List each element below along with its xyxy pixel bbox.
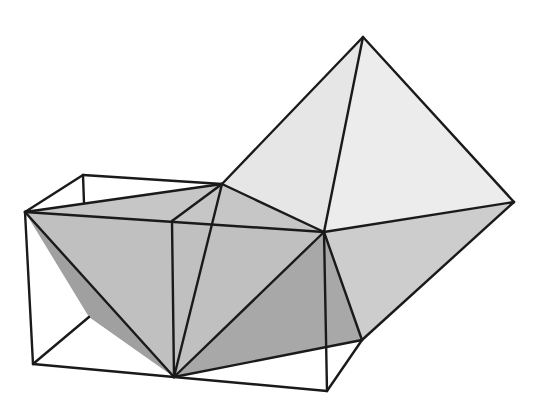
box-top-edge [83, 175, 222, 184]
polyhedron-figure [0, 0, 546, 414]
box-bottom-diag-right [327, 340, 362, 391]
box-bottom-right-edge [174, 377, 327, 391]
box-left-vertical [25, 212, 33, 364]
box-bottom-diag-left [33, 317, 89, 364]
box-bottom-left-edge [33, 364, 174, 377]
polyhedron-svg [0, 0, 546, 414]
box-top-left-vertical [83, 175, 84, 203]
